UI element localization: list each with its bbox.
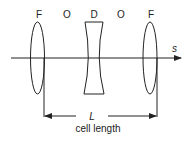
length-caption: cell length xyxy=(75,123,120,134)
fodo-diagram: F O D O F s L cell length xyxy=(0,0,190,141)
label-o-left: O xyxy=(63,9,71,20)
axis-label-s: s xyxy=(172,43,177,54)
label-f-left: F xyxy=(36,9,42,20)
length-symbol: L xyxy=(89,111,95,122)
label-d: D xyxy=(90,9,97,20)
label-f-right: F xyxy=(148,9,154,20)
label-o-right: O xyxy=(117,9,125,20)
